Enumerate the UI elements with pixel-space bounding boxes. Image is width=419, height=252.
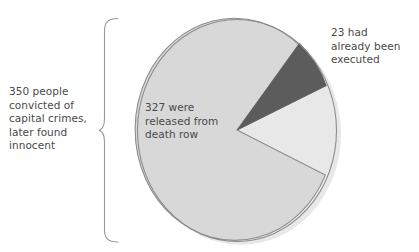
pie-chart-figure: 350 people convicted of capital crimes, … <box>0 0 419 252</box>
label-slice-released: 327 were released from death row <box>145 101 237 142</box>
label-slice-executed: 23 had already been executed <box>331 26 417 67</box>
grouping-brace <box>99 19 118 243</box>
label-total-convicted: 350 people convicted of capital crimes, … <box>9 85 95 153</box>
